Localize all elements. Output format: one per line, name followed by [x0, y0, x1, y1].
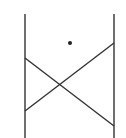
dot-marker — [68, 41, 72, 45]
diagonal-line-ascending — [25, 43, 114, 111]
diagram-canvas — [0, 0, 126, 138]
diagonal-line-descending — [25, 58, 114, 126]
